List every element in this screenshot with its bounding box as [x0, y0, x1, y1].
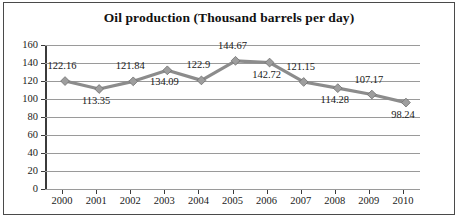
- y-axis-tick-mark: [41, 45, 45, 46]
- y-axis-tick-mark: [41, 171, 45, 172]
- x-axis-tick-mark: [369, 190, 370, 194]
- data-point-label: 113.35: [70, 96, 122, 107]
- y-axis-tick-mark: [41, 153, 45, 154]
- data-point-marker: [163, 66, 172, 75]
- y-axis-tick-mark: [41, 135, 45, 136]
- data-point-label: 98.24: [377, 110, 429, 121]
- x-axis-tick-mark: [130, 190, 131, 194]
- data-point-label: 121.15: [275, 62, 327, 73]
- x-axis-tick-mark: [335, 190, 336, 194]
- x-axis-tick-mark: [233, 190, 234, 194]
- data-point-label: 144.67: [207, 41, 259, 52]
- x-axis-tick-mark: [96, 190, 97, 194]
- data-point-marker: [129, 77, 138, 86]
- chart-frame: Oil production (Thousand barrels per day…: [3, 2, 455, 215]
- y-axis-tick-mark: [41, 63, 45, 64]
- y-axis-tick-mark: [41, 189, 45, 190]
- data-point-marker: [333, 84, 342, 93]
- data-point-marker: [61, 77, 70, 86]
- x-axis-tick-mark: [164, 190, 165, 194]
- data-point-marker: [402, 98, 411, 107]
- x-axis-tick-mark: [198, 190, 199, 194]
- data-point-label: 121.84: [104, 61, 156, 72]
- x-axis-tick-mark: [301, 190, 302, 194]
- data-point-marker: [95, 85, 104, 94]
- y-axis-tick-mark: [41, 99, 45, 100]
- y-axis-tick-mark: [41, 117, 45, 118]
- data-point-marker: [367, 90, 376, 99]
- data-point-label: 122.9: [172, 60, 224, 71]
- data-point-label: 134.09: [138, 77, 190, 88]
- y-axis-tick-mark: [41, 81, 45, 82]
- x-axis-tick-mark: [62, 190, 63, 194]
- data-point-label: 114.28: [309, 95, 361, 106]
- x-axis-tick-mark: [403, 190, 404, 194]
- x-axis-tick-label: 2010: [381, 196, 425, 207]
- data-point-label: 107.17: [343, 75, 395, 86]
- x-axis-tick-mark: [267, 190, 268, 194]
